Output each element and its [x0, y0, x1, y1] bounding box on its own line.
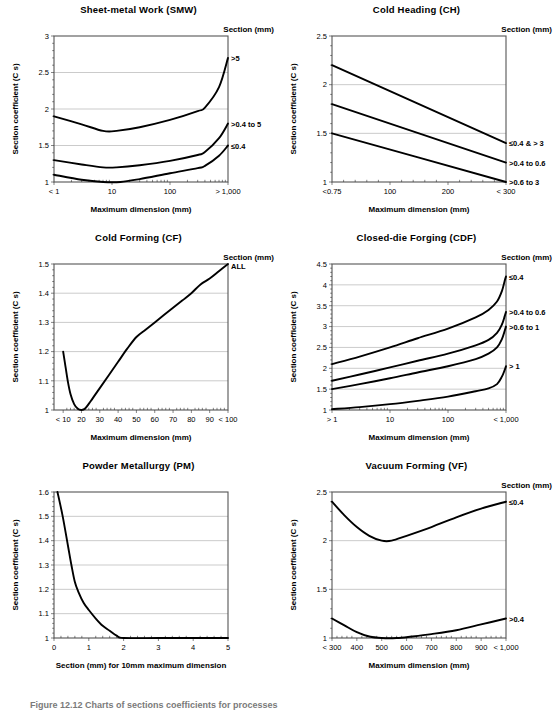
- y-tick-label: 2: [45, 105, 49, 114]
- legend-title: Section (mm): [501, 481, 552, 490]
- series-label: ≤0.4: [509, 498, 524, 507]
- y-tick-label: 2: [323, 364, 327, 373]
- series-curve->0.4: [332, 619, 506, 639]
- x-axis-label: Maximum dimension (mm): [369, 205, 470, 214]
- series-label: >0.6 to 1: [509, 323, 539, 332]
- y-tick-label: 1.3: [39, 561, 49, 570]
- series-curve->0.6 to 3: [332, 133, 506, 182]
- y-tick-label: 1.2: [39, 347, 49, 356]
- series-label: >0.4 to 5: [231, 120, 261, 129]
- y-axis-label: Section coefficient (C s): [11, 63, 20, 154]
- y-tick-label: 2.5: [39, 68, 49, 77]
- x-tick-label: 800: [450, 643, 463, 652]
- chart-svg-cf: 11.11.21.31.41.5< 102030405060708090< 10…: [0, 228, 277, 456]
- x-tick-label: < 10: [56, 415, 71, 424]
- chart-svg-ch: 11.522.5<0.75100200< 300≤0.4 & > 3>0.4 t…: [278, 0, 555, 228]
- y-tick-label: 1.4: [39, 289, 49, 298]
- x-tick-label: < 300: [323, 643, 342, 652]
- y-tick-label: 1.1: [39, 609, 49, 618]
- chart-svg-vf: 11.522.5< 300400500600700800900< 1,000≤0…: [278, 456, 555, 684]
- series-label: >5: [231, 54, 240, 63]
- series-label: >0.6 to 3: [509, 178, 539, 187]
- y-tick-label: 3: [323, 322, 327, 331]
- x-axis-label: Maximum dimension (mm): [91, 205, 192, 214]
- y-tick-label: 1.5: [317, 129, 327, 138]
- x-tick-label: 40: [114, 415, 122, 424]
- x-tick-label: 1: [87, 643, 91, 652]
- y-tick-label: 1.1: [39, 377, 49, 386]
- series-curve->0.4 to 0.6: [332, 312, 506, 381]
- x-tick-label: < 1,000: [493, 643, 518, 652]
- series-curve-≤0.4 & > 3: [332, 65, 506, 143]
- series-curve-≤0.4: [332, 502, 506, 542]
- y-tick-label: 2.5: [317, 488, 327, 497]
- x-tick-label: 100: [384, 187, 397, 196]
- series-label: ≤0.4 & > 3: [509, 139, 544, 148]
- chart-panel-ch: Cold Heading (CH) 11.522.5<0.75100200< 3…: [278, 0, 555, 228]
- x-tick-label: 60: [151, 415, 159, 424]
- series-label: ≤0.4: [231, 142, 246, 151]
- y-axis-label: Section coefficient (C s): [289, 63, 298, 154]
- x-tick-label: > 1: [327, 415, 338, 424]
- legend-title: Section (mm): [223, 253, 274, 262]
- x-tick-label: 100: [164, 187, 177, 196]
- series-label: >0.4 to 0.6: [509, 308, 545, 317]
- x-axis-label: Maximum dimension (mm): [369, 661, 470, 670]
- y-axis-label: Section coefficient (C s): [289, 519, 298, 610]
- y-tick-label: 4: [323, 281, 327, 290]
- x-tick-label: 50: [132, 415, 140, 424]
- plot-frame: [332, 492, 506, 638]
- x-tick-label: > 1,000: [215, 187, 240, 196]
- plot-frame: [332, 36, 506, 182]
- y-tick-label: 2.5: [317, 32, 327, 41]
- series-curve->5: [54, 58, 228, 132]
- x-axis-label: Section (mm) for 10mm maximum dimension: [56, 661, 227, 670]
- series-curve-≤0.4: [332, 277, 506, 365]
- y-axis-label: Section coefficient (C s): [11, 291, 20, 382]
- y-tick-label: 1.3: [39, 318, 49, 327]
- x-tick-label: 90: [206, 415, 214, 424]
- y-axis-label: Section coefficient (C s): [289, 291, 298, 382]
- x-axis-label: Maximum dimension (mm): [91, 433, 192, 442]
- y-tick-label: 1: [45, 406, 49, 415]
- y-tick-label: 1: [323, 178, 327, 187]
- x-tick-label: 30: [96, 415, 104, 424]
- y-tick-label: 1: [323, 634, 327, 643]
- y-tick-label: 1.4: [39, 536, 49, 545]
- x-tick-label: < 1: [49, 187, 60, 196]
- chart-panel-pm: Powder Metallurgy (PM) 11.11.21.31.41.51…: [0, 456, 277, 684]
- chart-svg-pm: 11.11.21.31.41.51.6012345Section (mm) fo…: [0, 456, 277, 684]
- x-tick-label: 900: [475, 643, 488, 652]
- x-tick-label: 500: [375, 643, 388, 652]
- x-tick-label: < 1,000: [493, 415, 518, 424]
- y-axis-label: Section coefficient (C s): [11, 519, 20, 610]
- x-tick-label: < 100: [219, 415, 238, 424]
- y-tick-label: 2: [323, 536, 327, 545]
- y-tick-label: 1: [45, 634, 49, 643]
- chart-panel-smw: Sheet-metal Work (SMW) 11.522.53< 110100…: [0, 0, 277, 228]
- x-tick-label: <0.75: [323, 187, 342, 196]
- series-label: ALL: [231, 262, 246, 271]
- chart-panel-cf: Cold Forming (CF) 11.11.21.31.41.5< 1020…: [0, 228, 277, 456]
- x-tick-label: 400: [351, 643, 364, 652]
- series-label: ≤0.4: [509, 273, 524, 282]
- x-tick-label: 600: [400, 643, 413, 652]
- y-tick-label: 1.5: [39, 512, 49, 521]
- x-tick-label: 2: [122, 643, 126, 652]
- x-tick-label: 700: [425, 643, 438, 652]
- x-tick-label: 100: [442, 415, 455, 424]
- y-tick-label: 2: [323, 80, 327, 89]
- y-tick-label: 2.5: [317, 343, 327, 352]
- legend-title: Section (mm): [501, 253, 552, 262]
- series-label: >0.4 to 0.6: [509, 159, 545, 168]
- x-tick-label: 10: [386, 415, 394, 424]
- plot-frame: [54, 264, 228, 410]
- y-tick-label: 1.5: [317, 585, 327, 594]
- x-tick-label: 80: [187, 415, 195, 424]
- y-tick-label: 1.6: [39, 488, 49, 497]
- legend-title: Section (mm): [501, 25, 552, 34]
- chart-svg-smw: 11.522.53< 110100> 1,000>5>0.4 to 5≤0.4S…: [0, 0, 277, 228]
- x-tick-label: 10: [108, 187, 116, 196]
- x-tick-label: 5: [226, 643, 230, 652]
- y-tick-label: 1: [323, 406, 327, 415]
